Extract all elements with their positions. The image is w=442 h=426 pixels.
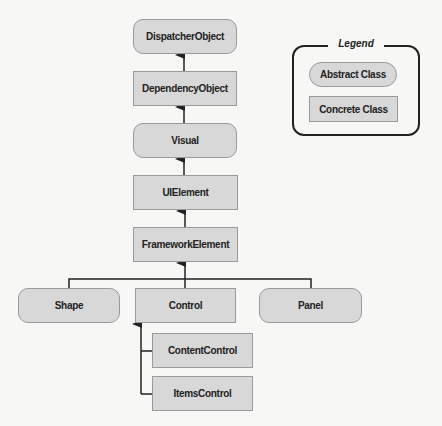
node-framework-element: FrameworkElement [133,227,238,262]
legend-concrete-class: Concrete Class [309,96,398,122]
legend-abstract-class: Abstract Class [309,62,397,87]
node-ui-element: UIElement [133,175,238,210]
node-shape: Shape [18,288,120,323]
node-content-control: ContentControl [152,333,253,368]
legend-title: Legend [328,36,384,52]
node-items-control: ItemsControl [152,376,253,411]
node-panel: Panel [259,288,362,323]
node-dispatcher-object: DispatcherObject [133,19,237,54]
node-dependency-object: DependencyObject [133,71,237,106]
legend-box [292,45,420,136]
node-visual: Visual [133,123,237,158]
node-control: Control [135,288,236,323]
